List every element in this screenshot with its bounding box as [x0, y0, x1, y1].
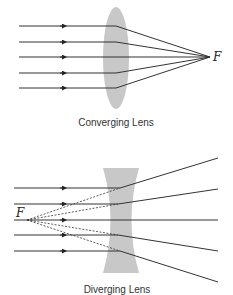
converging-lens-diagram: F Converging Lens: [19, 7, 222, 128]
ray-arrows: [60, 26, 65, 88]
refracted-rays: [116, 26, 210, 88]
focal-point-label: F: [15, 206, 25, 220]
incident-rays: [19, 26, 116, 88]
diverging-lens-diagram: F Diverging Lens: [14, 158, 218, 295]
lens-diagrams: F Converging Lens: [0, 0, 233, 295]
diverging-lens-caption: Diverging Lens: [84, 284, 151, 295]
focal-point-label: F: [212, 50, 222, 64]
ray-arrows: [60, 188, 65, 251]
converging-lens-caption: Converging Lens: [78, 117, 154, 128]
convex-lens: [103, 7, 129, 109]
